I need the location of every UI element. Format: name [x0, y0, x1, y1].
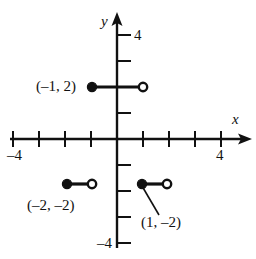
segment-3-open-endpoint: [163, 180, 171, 188]
graph-figure: x y –4 4 4 –4 (–1, 2) (–2, –2) (1, –2): [0, 0, 256, 259]
point-label-neg2-neg2: (–2, –2): [27, 198, 75, 213]
y-axis-label: y: [101, 14, 108, 29]
point-label-1-neg2: (1, –2): [141, 215, 181, 230]
x-axis: [10, 131, 252, 147]
segment-2-closed-endpoint: [62, 179, 71, 188]
segment-2-open-endpoint: [88, 180, 96, 188]
y-tick-label--4: –4: [97, 236, 112, 251]
y-tick-label-4: 4: [134, 28, 142, 43]
segment-2: [62, 179, 96, 188]
x-tick-label-4: 4: [216, 148, 224, 163]
segment-3-label-leader-line: [142, 186, 159, 215]
coordinate-plane-svg: [0, 0, 256, 259]
segment-3: [137, 179, 171, 215]
segment-1-closed-endpoint: [87, 82, 96, 91]
x-axis-label: x: [232, 112, 239, 127]
segment-1-open-endpoint: [139, 83, 147, 91]
y-axis: [112, 12, 132, 248]
x-tick-label--4: –4: [7, 148, 22, 163]
point-label-neg1-2: (–1, 2): [36, 79, 76, 94]
